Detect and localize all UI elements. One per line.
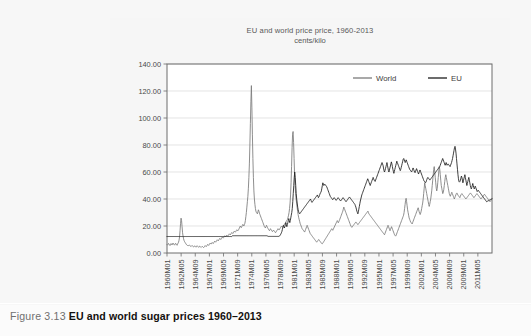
x-axis-tick-label: 2002M01 — [417, 260, 426, 290]
y-axis-tick-label: 40.00 — [143, 195, 162, 204]
x-axis-tick-label: 1967M01 — [205, 260, 214, 290]
page-divider — [0, 303, 531, 304]
x-axis-tick-label: 1969M05 — [219, 260, 228, 290]
x-axis-tick-label: 2009M01 — [459, 260, 468, 290]
y-axis-ticks: 0.0020.0040.0060.0080.00100.00120.00140.… — [138, 60, 167, 258]
x-axis-tick-label: 1981M01 — [290, 260, 299, 290]
figure-caption-text: EU and world sugar prices 1960–2013 — [69, 310, 262, 322]
y-axis-tick-label: 20.00 — [143, 222, 162, 231]
x-axis-tick-label: 1988M01 — [332, 260, 341, 290]
x-axis-ticks: 1960M011962M051964M091967M011969M051971M… — [163, 253, 483, 289]
x-axis-tick-label: 1983M05 — [304, 260, 313, 290]
figure-number: Figure 3.13 — [10, 310, 66, 322]
x-axis-tick-label: 1964M09 — [191, 260, 200, 290]
x-axis-tick-label: 1978M09 — [276, 260, 285, 290]
figure-container: EU and world price price, 1960-2013 cent… — [0, 0, 531, 305]
x-axis-tick-label: 2006M09 — [445, 260, 454, 290]
plot-area: 0.0020.0040.0060.0080.00100.00120.00140.… — [110, 18, 510, 300]
x-axis-tick-label: 1990M05 — [346, 260, 355, 290]
gridlines — [167, 64, 492, 253]
x-axis-tick-label: 1976M05 — [262, 260, 271, 290]
legend-label-eu[interactable]: EU — [451, 74, 462, 83]
line-chart-svg: 0.0020.0040.0060.0080.00100.00120.00140.… — [110, 18, 510, 300]
x-axis-tick-label: 1997M05 — [389, 260, 398, 290]
y-axis-tick-label: 140.00 — [138, 60, 161, 69]
figure-caption: Figure 3.13 EU and world sugar prices 19… — [10, 310, 510, 322]
x-axis-tick-label: 2004M05 — [431, 260, 440, 290]
x-axis-tick-label: 1960M01 — [163, 260, 172, 290]
x-axis-tick-label: 1971M09 — [233, 260, 242, 290]
x-axis-tick-label: 1999M09 — [403, 260, 412, 290]
y-axis-tick-label: 120.00 — [138, 87, 161, 96]
x-axis-tick-label: 1992M09 — [360, 260, 369, 290]
x-axis-tick-label: 1974M01 — [247, 260, 256, 290]
x-axis-tick-label: 1995M01 — [375, 260, 384, 290]
y-axis-tick-label: 80.00 — [143, 141, 162, 150]
y-axis-tick-label: 0.00 — [147, 249, 161, 258]
x-axis-tick-label: 1985M09 — [318, 260, 327, 290]
y-axis-tick-label: 100.00 — [138, 114, 161, 123]
chart-card: EU and world price price, 1960-2013 cent… — [110, 18, 510, 300]
x-axis-tick-label: 2011M05 — [473, 259, 482, 288]
legend-label-world[interactable]: World — [376, 74, 396, 83]
y-axis-tick-label: 60.00 — [143, 168, 162, 177]
x-axis-tick-label: 1962M05 — [177, 260, 186, 290]
